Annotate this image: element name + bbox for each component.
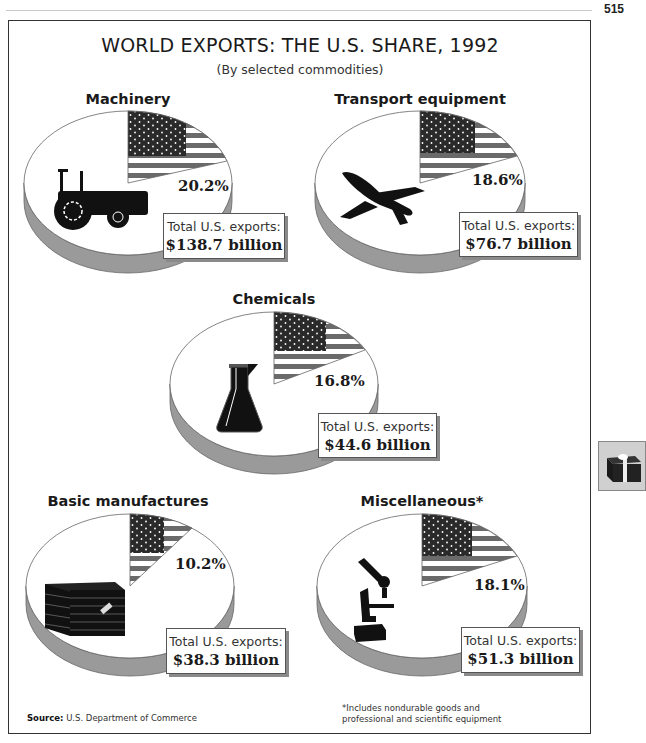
page-number: 515 bbox=[604, 2, 624, 16]
pct-basic-manufactures: 10.2% bbox=[175, 555, 226, 573]
chart-title: WORLD EXPORTS: THE U.S. SHARE, 1992 bbox=[0, 34, 600, 56]
total-box-machinery: Total U.S. exports: $138.7 billion bbox=[163, 213, 285, 259]
gift-box-icon bbox=[599, 442, 645, 490]
source-note: Source: U.S. Department of Commerce bbox=[27, 713, 197, 723]
pct-machinery: 20.2% bbox=[178, 177, 229, 195]
total-value: $76.7 billion bbox=[460, 234, 577, 254]
source-label: Source: bbox=[27, 713, 63, 723]
total-value: $51.3 billion bbox=[462, 649, 579, 669]
top-rule bbox=[6, 10, 592, 11]
total-box-miscellaneous: Total U.S. exports: $51.3 billion bbox=[461, 627, 580, 673]
source-text: U.S. Department of Commerce bbox=[66, 713, 197, 723]
pie-label-chemicals: Chemicals bbox=[233, 291, 316, 307]
total-box-basic-manufactures: Total U.S. exports: $38.3 billion bbox=[166, 628, 286, 674]
pct-chemicals: 16.8% bbox=[314, 372, 365, 390]
chart-subtitle: (By selected commodities) bbox=[0, 62, 600, 77]
total-label: Total U.S. exports: bbox=[462, 633, 579, 649]
total-label: Total U.S. exports: bbox=[460, 218, 577, 234]
crate-icon bbox=[45, 582, 125, 636]
total-value: $138.7 billion bbox=[164, 235, 284, 255]
pct-transport: 18.6% bbox=[472, 171, 523, 189]
pie-label-basic-manufactures: Basic manufactures bbox=[47, 493, 208, 509]
total-value: $38.3 billion bbox=[167, 650, 285, 670]
total-label: Total U.S. exports: bbox=[164, 219, 284, 235]
pie-label-miscellaneous: Miscellaneous* bbox=[361, 493, 484, 509]
footnote: *Includes nondurable goods and professio… bbox=[342, 703, 542, 725]
pct-miscellaneous: 18.1% bbox=[474, 576, 525, 594]
total-value: $44.6 billion bbox=[319, 435, 436, 455]
total-label: Total U.S. exports: bbox=[319, 419, 436, 435]
total-label: Total U.S. exports: bbox=[167, 634, 285, 650]
total-box-transport: Total U.S. exports: $76.7 billion bbox=[459, 212, 578, 257]
footnote-line-2: professional and scientific equipment bbox=[342, 714, 542, 725]
footnote-line-1: *Includes nondurable goods and bbox=[342, 703, 542, 714]
total-box-chemicals: Total U.S. exports: $44.6 billion bbox=[318, 413, 437, 458]
side-tab bbox=[598, 441, 646, 491]
